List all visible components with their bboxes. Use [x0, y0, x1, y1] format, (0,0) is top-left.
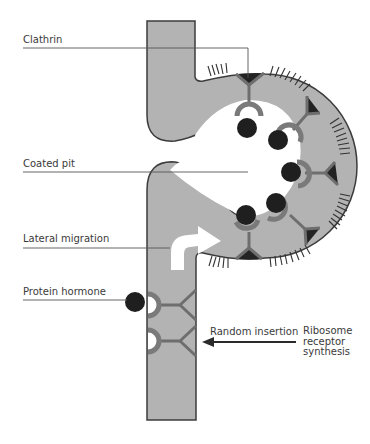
label-random-insertion: Random insertion: [210, 326, 298, 338]
hormone: [281, 162, 301, 182]
label-lateral-migration: Lateral migration: [23, 233, 109, 245]
hormone-free: [125, 292, 145, 312]
label-coated-pit: Coated pit: [23, 158, 75, 170]
hormone: [266, 193, 286, 213]
label-protein-hormone: Protein hormone: [23, 286, 106, 298]
receptor: [148, 294, 159, 316]
hormone: [268, 130, 288, 150]
random-insertion-arrow-icon: [202, 337, 296, 347]
hormone: [236, 205, 256, 225]
label-ribosome-receptor-synthesis: Ribosome receptor synthesis: [303, 326, 352, 358]
endocytosis-diagram: [0, 0, 370, 444]
label-clathrin: Clathrin: [23, 34, 62, 46]
hormone: [237, 118, 257, 138]
receptor: [148, 330, 159, 352]
